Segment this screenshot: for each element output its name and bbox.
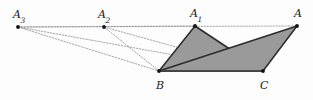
- vertex-label-A1: A1: [190, 8, 203, 22]
- vertex-point-A1: [193, 24, 197, 28]
- vertex-point-A: [295, 24, 299, 28]
- line-A2-B: [104, 27, 159, 71]
- vertex-point-A2: [102, 25, 106, 29]
- line-A3-B: [18, 27, 159, 71]
- vertex-label-B: B: [156, 80, 164, 91]
- vertex-point-A3: [16, 25, 20, 29]
- vertex-point-B: [157, 69, 161, 73]
- vertex-label-A: A: [294, 8, 302, 19]
- shaded-triangles: [159, 26, 297, 71]
- geometry-figure: A3A2A1ABC: [0, 0, 313, 100]
- vertex-label-A2: A2: [98, 9, 111, 23]
- vertex-label-A3: A3: [13, 9, 26, 23]
- vertex-point-C: [261, 69, 265, 73]
- vertex-label-C: C: [260, 80, 268, 91]
